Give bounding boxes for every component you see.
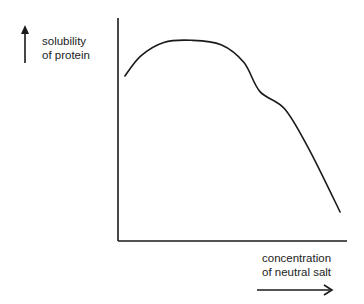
y-axis-label-line-2: of protein [42, 48, 90, 62]
y-axis-label: solubility of protein [42, 34, 90, 62]
right-arrow-icon [257, 285, 332, 295]
y-axis-label-line-1: solubility [42, 34, 90, 48]
x-axis-label: concentration of neutral salt [262, 251, 331, 279]
x-axis-label-line-2: of neutral salt [262, 265, 331, 279]
up-arrow-icon [21, 25, 29, 63]
solubility-curve [125, 40, 340, 212]
x-axis-label-line-1: concentration [262, 251, 331, 265]
